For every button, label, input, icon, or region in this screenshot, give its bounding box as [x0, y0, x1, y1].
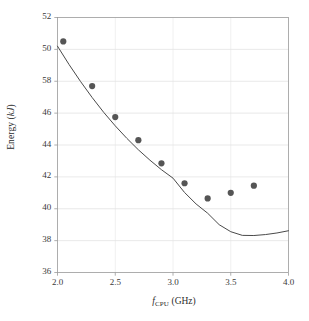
scatter-point — [228, 190, 234, 196]
y-axis-title-unit: (kJ) — [6, 104, 16, 119]
x-axis-title: fCPU (GHz) — [58, 296, 290, 308]
x-axis-tick-label: 4.0 — [274, 277, 304, 287]
scatter-point — [251, 183, 257, 189]
y-axis-tick-label: 44 — [25, 139, 51, 149]
y-axis-tick-label: 42 — [25, 170, 51, 180]
x-axis-tick-label: 2.0 — [43, 277, 73, 287]
y-axis-tick-label: 52 — [25, 11, 51, 21]
scatter-point — [181, 180, 187, 186]
y-axis-title: Energy (kJ) — [6, 72, 16, 182]
x-axis-tick-label: 3.0 — [158, 277, 188, 287]
scatter-point — [205, 195, 211, 201]
y-axis-tick-label: 40 — [25, 202, 51, 212]
x-axis-title-subscript: CPU — [155, 300, 169, 308]
y-axis-tick-label: 50 — [25, 43, 51, 53]
scatter-point — [112, 114, 118, 120]
x-axis-tick-label: 3.5 — [216, 277, 246, 287]
y-axis-tick-label: 58 — [25, 75, 51, 85]
y-axis-tick-label: 38 — [25, 234, 51, 244]
y-axis-tick-label: 36 — [25, 266, 51, 276]
scatter-point — [60, 38, 66, 44]
axis-tick-marks — [54, 18, 288, 276]
scatter-point — [89, 83, 95, 89]
energy-vs-cpu-frequency-chart: 525058464442403836 2.02.53.03.54.0 Energ… — [0, 0, 309, 321]
y-axis-tick-label: 46 — [25, 107, 51, 117]
x-axis-tick-label: 2.5 — [100, 277, 130, 287]
scatter-point — [135, 137, 141, 143]
y-axis-title-name: Energy — [6, 122, 16, 150]
scatter-point — [158, 160, 164, 166]
x-axis-title-unit: (GHz) — [171, 296, 195, 306]
